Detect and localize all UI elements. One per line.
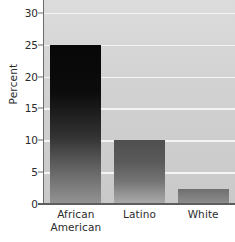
x-tick-label: White [171,208,235,221]
y-tick-label: 20 [2,71,38,83]
y-tick-label: 15 [2,102,38,114]
y-tick-label: 25 [2,39,38,51]
x-tick-label-line: White [171,208,235,221]
gridline [44,13,235,15]
y-tick-label: 0 [2,198,38,210]
plot-area [44,0,235,204]
x-tick-label: AfricanAmerican [44,208,108,233]
bar [114,140,165,204]
x-tick-label-line: American [44,221,108,234]
bar-chart-figure: Percent 051015202530 AfricanAmericanLati… [0,0,235,242]
y-tick-label: 5 [2,166,38,178]
y-tick-label: 10 [2,134,38,146]
x-tick-label: Latino [108,208,172,221]
x-tick-label-line: African [44,208,108,221]
bar [178,189,229,204]
x-axis-line [38,203,235,205]
y-tick-label: 30 [2,7,38,19]
x-axis-tick-labels: AfricanAmericanLatinoWhite [44,208,235,242]
bar [50,45,101,204]
x-tick-label-line: Latino [108,208,172,221]
y-axis-tick-labels: 051015202530 [0,0,38,205]
